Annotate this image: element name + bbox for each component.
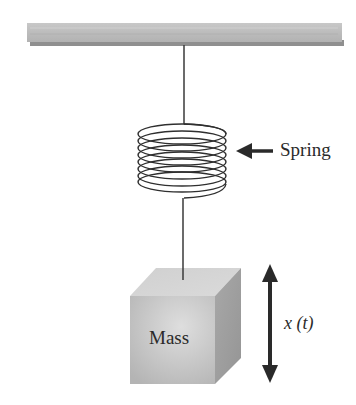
ceiling: [27, 23, 344, 46]
spring-label: Spring: [280, 139, 331, 161]
mass-block: [130, 268, 241, 384]
spring-pointer-arrow: [236, 143, 273, 159]
displacement-arrow: [262, 264, 278, 383]
displacement-label: x (t): [284, 313, 313, 334]
spring: [138, 124, 226, 198]
ceiling-bar: [27, 23, 342, 42]
mass-label: Mass: [149, 327, 189, 349]
